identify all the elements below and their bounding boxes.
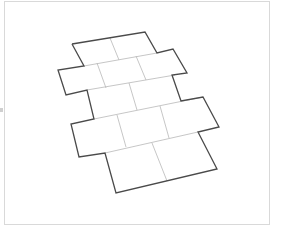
tile-layout-diagram (0, 0, 281, 227)
